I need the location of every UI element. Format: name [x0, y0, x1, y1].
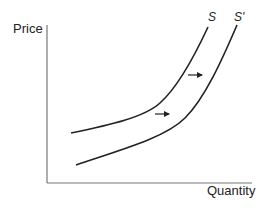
- supply-curve-s-prime: [76, 25, 237, 165]
- supply-curve-s: [71, 27, 208, 133]
- y-axis-label: Price: [13, 21, 43, 36]
- x-axis-label: Quantity: [207, 183, 255, 198]
- series-label-s: S: [208, 10, 216, 24]
- series-label-s-prime: S': [234, 10, 244, 24]
